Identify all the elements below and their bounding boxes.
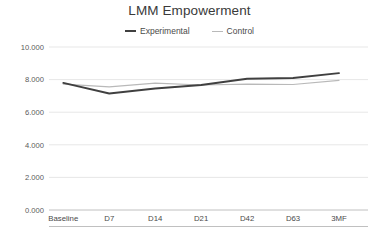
series-line-control: [63, 80, 339, 87]
x-axis-tick-label: D7: [104, 214, 114, 223]
x-axis-tick-label: D42: [240, 214, 254, 223]
y-axis-tick-label: 0.000: [25, 206, 44, 215]
chart-plot-area: 0.0002.0004.0006.0008.00010.000BaselineD…: [0, 0, 379, 237]
x-axis-tick-label: D21: [194, 214, 208, 223]
y-axis-tick-label: 4.000: [25, 141, 44, 150]
y-axis-tick-label: 10.000: [21, 43, 44, 52]
y-axis-tick-label: 6.000: [25, 108, 44, 117]
y-axis-tick-label: 8.000: [25, 75, 44, 84]
x-axis-tick-label: D63: [286, 214, 300, 223]
chart-container: LMM Empowerment Experimental Control 0.0…: [0, 0, 379, 237]
x-axis-tick-label: Baseline: [48, 214, 78, 223]
x-axis-tick-label: D14: [148, 214, 163, 223]
series-line-experimental: [63, 73, 339, 93]
x-axis-tick-label: 3MF: [331, 214, 347, 223]
y-axis-tick-label: 2.000: [25, 173, 44, 182]
